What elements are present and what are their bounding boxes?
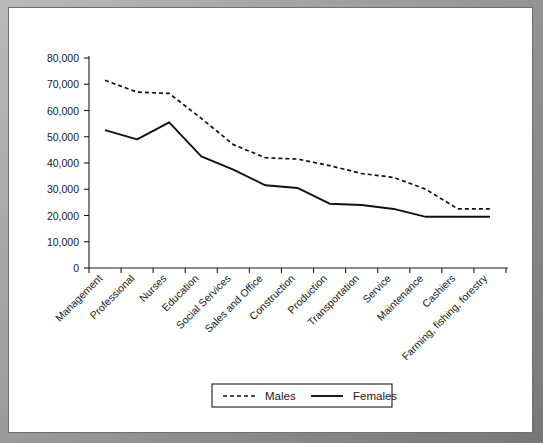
x-category-labels: ManagementProfessionalNursesEducationSoc… [53, 271, 490, 362]
x-tick-marks [89, 268, 506, 273]
series-line-females [105, 122, 490, 217]
y-tick-label: 50,000 [47, 131, 79, 143]
y-tick-label: 60,000 [47, 105, 79, 117]
y-tick-marks [84, 58, 89, 268]
y-tick-label: 20,000 [47, 210, 79, 222]
chart-canvas: 010,00020,00030,00040,00050,00060,00070,… [9, 8, 532, 432]
y-tick-label: 80,000 [47, 52, 79, 64]
y-tick-label: 0 [73, 262, 79, 274]
y-tick-label: 40,000 [47, 157, 79, 169]
line-chart: 010,00020,00030,00040,00050,00060,00070,… [9, 8, 532, 432]
chart-legend: Males Females [212, 384, 397, 407]
figure-outer-frame: 010,00020,00030,00040,00050,00060,00070,… [0, 0, 543, 443]
y-tick-label: 10,000 [47, 236, 79, 248]
y-tick-label: 30,000 [47, 183, 79, 195]
legend-label-females: Females [353, 390, 397, 402]
y-tick-label: 70,000 [47, 78, 79, 90]
legend-label-males: Males [265, 390, 296, 402]
y-tick-labels: 010,00020,00030,00040,00050,00060,00070,… [47, 52, 79, 274]
series-line-males [105, 80, 490, 209]
x-category-label: Sales and Office [202, 272, 265, 335]
